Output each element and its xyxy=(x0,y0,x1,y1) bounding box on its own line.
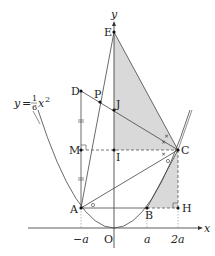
tick-neg-a: −a xyxy=(73,233,89,246)
curve-label-y: y xyxy=(13,97,21,110)
label-B: B xyxy=(145,209,153,222)
origin-label: O xyxy=(104,233,113,246)
angle-mark-x2: × xyxy=(161,138,166,145)
tick-2a: 2a xyxy=(170,233,185,246)
point-E xyxy=(112,30,115,33)
label-M: M xyxy=(69,144,80,157)
curve-label-eq: = xyxy=(22,97,31,110)
curve-label-den: 6 xyxy=(32,103,37,112)
curve-label: y = 1 6 x 2 xyxy=(13,94,50,112)
point-D xyxy=(79,89,82,92)
curve-label-exp: 2 xyxy=(45,95,50,104)
segment-EA xyxy=(81,32,114,208)
angle-mark-o-C xyxy=(166,159,169,162)
tick-a: a xyxy=(144,233,151,246)
label-E: E xyxy=(104,26,112,39)
point-H xyxy=(176,206,179,209)
geometry-diagram: × × × y x O E D P J M I C A B H −a a 2a … xyxy=(0,0,215,256)
label-I: I xyxy=(116,151,120,164)
y-axis-arrow-icon xyxy=(112,21,116,26)
label-J: J xyxy=(115,98,120,111)
label-H: H xyxy=(182,202,192,215)
label-P: P xyxy=(94,88,102,101)
y-axis-label: y xyxy=(110,8,118,21)
point-C xyxy=(176,148,179,151)
curve-label-x: x xyxy=(38,97,45,110)
x-axis-arrow-icon xyxy=(198,226,203,230)
point-A xyxy=(79,206,82,209)
curve-label-num: 1 xyxy=(32,94,37,103)
label-C: C xyxy=(181,144,189,157)
angle-mark-o-A xyxy=(91,203,94,206)
x-axis-label: x xyxy=(204,222,211,235)
angle-mark-x3: × xyxy=(161,150,166,157)
label-D: D xyxy=(71,85,80,98)
label-A: A xyxy=(69,203,79,216)
